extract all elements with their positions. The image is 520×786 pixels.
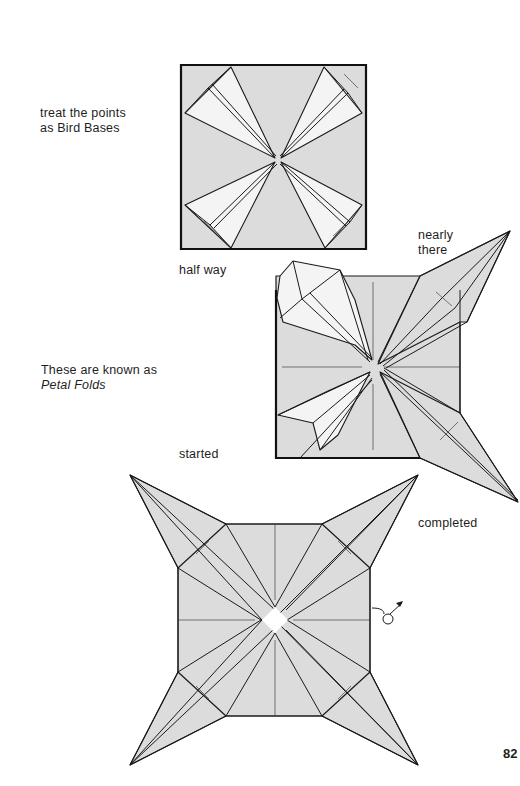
diagram-petal-fold-progress xyxy=(276,231,518,502)
diagrams-canvas xyxy=(0,0,520,786)
diagram-bird-base-square xyxy=(181,65,366,249)
turn-over-arrow-icon xyxy=(372,601,403,624)
diagram-completed-star xyxy=(130,475,418,765)
